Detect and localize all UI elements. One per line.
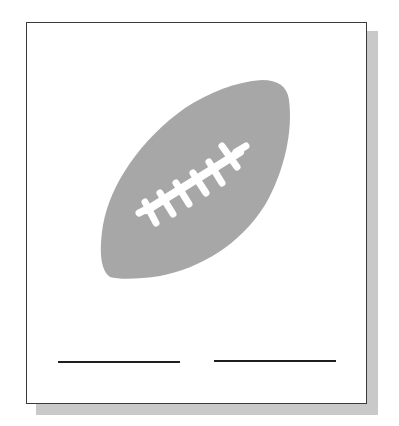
- answer-line-right[interactable]: [214, 360, 336, 362]
- worksheet-card-stage: [0, 0, 399, 426]
- answer-line-left[interactable]: [58, 361, 180, 363]
